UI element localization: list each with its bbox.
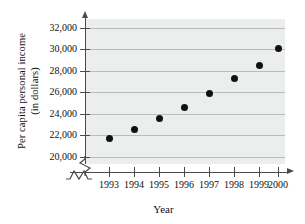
data-point-1999 — [256, 62, 263, 69]
gridline-26000 — [85, 92, 285, 93]
gridline-20000 — [85, 157, 285, 158]
y-axis-title: Per capita personal income (in dollars) — [15, 11, 41, 171]
gridline-30000 — [85, 49, 285, 50]
y-tick-30000 — [80, 49, 90, 50]
y-tick-32000 — [80, 28, 90, 29]
x-tick-1999 — [259, 167, 260, 177]
x-tick-1996 — [184, 167, 185, 177]
x-axis-line — [70, 172, 288, 173]
y-axis-title-line1: Per capita personal income — [15, 11, 28, 171]
y-axis-arrowhead — [82, 11, 88, 18]
x-tick-2000 — [278, 167, 279, 177]
x-axis-arrowhead — [287, 168, 294, 174]
data-point-1998 — [231, 75, 238, 82]
scatter-chart: 32,000 30,000 28,000 26,000 24,000 22,00… — [0, 0, 305, 224]
y-axis-line — [85, 17, 86, 164]
data-point-1996 — [181, 104, 188, 111]
x-tick-1995 — [159, 167, 160, 177]
y-axis-title-line2: (in dollars) — [28, 11, 41, 171]
data-point-1997 — [206, 90, 213, 97]
gridline-22000 — [85, 135, 285, 136]
data-point-1994 — [131, 126, 138, 133]
y-tick-28000 — [80, 71, 90, 72]
x-tick-1993 — [109, 167, 110, 177]
gridline-28000 — [85, 71, 285, 72]
data-point-1995 — [156, 115, 163, 122]
x-tick-1994 — [134, 167, 135, 177]
data-point-2000 — [275, 45, 282, 52]
x-tick-1998 — [234, 167, 235, 177]
gridline-32000 — [85, 28, 285, 29]
x-axis-title: Year — [0, 203, 305, 215]
y-tick-26000 — [80, 92, 90, 93]
y-tick-20000 — [80, 157, 90, 158]
x-tick-label-2000: 2000 — [261, 179, 295, 190]
gridline-24000 — [85, 114, 285, 115]
y-tick-24000 — [80, 114, 90, 115]
x-axis-break-icon — [66, 165, 92, 181]
data-point-1993 — [106, 135, 113, 142]
x-tick-1997 — [209, 167, 210, 177]
y-tick-22000 — [80, 135, 90, 136]
